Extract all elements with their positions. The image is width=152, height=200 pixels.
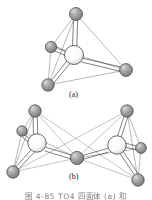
panel-b-right-center-atom — [108, 136, 126, 154]
panel-a-structure — [42, 8, 133, 92]
panel-b-bridging-oxygen-atom — [70, 151, 83, 164]
tetrahedra-diagram — [0, 0, 152, 200]
figure-caption: 图 4-85 TO4 四面体 (a) 和 — [0, 190, 152, 200]
panel-a-vertex-atoms — [42, 8, 133, 92]
panel-b-label: (b) — [69, 172, 78, 181]
panel-a-tetrahedron-edges — [48, 14, 126, 85]
panel-a-label: (a) — [69, 90, 78, 99]
figure-root: (a) (b) 图 4-85 TO4 四面体 (a) 和 — [0, 0, 152, 200]
panel-a-center-atom — [65, 46, 84, 65]
panel-b-left-center-atom — [28, 134, 46, 152]
